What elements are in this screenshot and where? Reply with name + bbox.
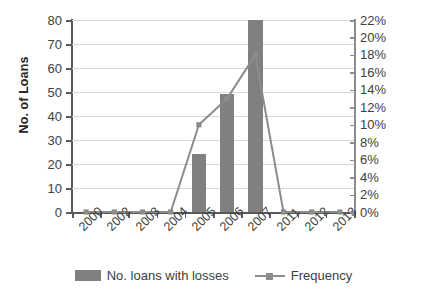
- right-axis-tick: [350, 142, 356, 144]
- legend-bar-swatch-icon: [75, 270, 101, 281]
- left-axis-tick: [66, 20, 72, 22]
- right-axis-tick-label: 10%: [360, 118, 406, 131]
- right-axis-tick: [350, 107, 356, 109]
- right-axis-tick-label: 0%: [360, 206, 406, 219]
- right-axis-tick: [350, 55, 356, 57]
- right-axis-tick-label: 6%: [360, 153, 406, 166]
- left-axis-tick: [66, 164, 72, 166]
- legend-line-swatch-icon: [255, 270, 285, 281]
- left-axis-tick-label: 80: [18, 14, 62, 27]
- frequency-data-marker: [196, 122, 201, 127]
- legend-item-frequency: Frequency: [255, 268, 352, 283]
- right-axis-tick: [350, 195, 356, 197]
- line-series-frequency: [72, 20, 354, 212]
- right-axis-tick: [350, 90, 356, 92]
- chart-legend: No. loans with losses Frequency: [0, 268, 427, 283]
- right-axis-tick-label: 8%: [360, 136, 406, 149]
- right-axis-tick-label: 12%: [360, 101, 406, 114]
- legend-item-no-loans-with-losses: No. loans with losses: [75, 268, 229, 283]
- right-axis-tick: [350, 37, 356, 39]
- legend-label-frequency: Frequency: [291, 268, 352, 283]
- left-axis-tick: [66, 188, 72, 190]
- frequency-data-marker: [225, 96, 230, 101]
- right-axis-tick-label: 20%: [360, 31, 406, 44]
- left-axis-tick-label: 50: [18, 86, 62, 99]
- left-axis-tick-label: 0: [18, 206, 62, 219]
- right-axis-tick-label: 22%: [360, 14, 406, 27]
- right-axis-tick-label: 4%: [360, 171, 406, 184]
- right-axis-tick-label: 2%: [360, 188, 406, 201]
- left-axis-tick-label: 10: [18, 182, 62, 195]
- left-axis-tick-label: 40: [18, 110, 62, 123]
- right-axis-tick: [350, 72, 356, 74]
- plot-area: [72, 20, 354, 212]
- left-axis-tick: [66, 68, 72, 70]
- frequency-line-path: [86, 55, 340, 212]
- left-axis-tick-label: 30: [18, 134, 62, 147]
- x-axis-tick: [72, 212, 74, 218]
- left-axis-tick: [66, 92, 72, 94]
- chart-container: No. of Loans 01020304050607080 0%2%4%6%8…: [0, 0, 427, 305]
- left-axis-tick-label: 60: [18, 62, 62, 75]
- right-axis-tick: [350, 177, 356, 179]
- left-axis-tick: [66, 44, 72, 46]
- right-axis-tick: [350, 20, 356, 22]
- left-axis-tick-label: 20: [18, 158, 62, 171]
- right-axis-spine: [354, 19, 356, 213]
- frequency-data-marker: [253, 52, 258, 57]
- left-axis-tick: [66, 116, 72, 118]
- left-axis-tick: [66, 140, 72, 142]
- right-axis-tick: [350, 125, 356, 127]
- right-axis-tick: [350, 160, 356, 162]
- legend-label-no-loans-with-losses: No. loans with losses: [107, 268, 229, 283]
- right-axis-tick-label: 16%: [360, 66, 406, 79]
- right-axis-tick-label: 14%: [360, 83, 406, 96]
- right-axis-tick-label: 18%: [360, 48, 406, 61]
- left-axis-tick-label: 70: [18, 38, 62, 51]
